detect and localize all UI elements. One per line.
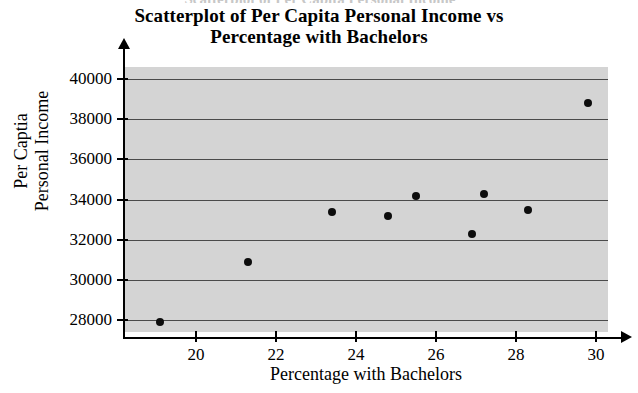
- x-axis-tick-label: 22: [246, 345, 306, 365]
- y-axis-tick-label: 30000: [40, 270, 112, 290]
- chart-title-line-2: Percentage with Bachelors: [0, 26, 638, 47]
- x-axis-tick-label: 24: [326, 345, 386, 365]
- x-axis-tick-label: 30: [566, 345, 626, 365]
- y-axis-tick: [117, 158, 128, 160]
- x-axis-arrowhead: [621, 331, 632, 343]
- y-axis-tick: [117, 279, 128, 281]
- y-axis-title: Per Captia Personal Income: [11, 41, 53, 261]
- chart-title-line-1: Scatterplot of Per Capita Personal Incom…: [0, 5, 638, 26]
- x-axis-tick: [355, 331, 357, 342]
- x-axis-title: Percentage with Bachelors: [124, 364, 608, 385]
- x-axis-tick: [435, 331, 437, 342]
- gridline: [124, 320, 608, 321]
- data-point: [584, 99, 592, 107]
- y-axis-tick: [117, 78, 128, 80]
- data-point: [468, 230, 476, 238]
- y-axis-title-line-2: Personal Income: [32, 41, 53, 261]
- y-axis-tick: [117, 319, 128, 321]
- plot-area: [124, 67, 608, 332]
- scatterplot-figure: Scatterplot of Per Capita Personal Incom…: [0, 0, 638, 393]
- y-axis-title-line-1: Per Captia: [11, 41, 32, 261]
- data-point: [156, 318, 164, 326]
- x-axis-tick-label: 26: [406, 345, 466, 365]
- data-point: [244, 258, 252, 266]
- chart-title: Scatterplot of Per Capita Personal Incom…: [0, 5, 638, 47]
- y-axis-line: [123, 46, 125, 338]
- y-axis-tick: [117, 239, 128, 241]
- y-axis-tick: [117, 118, 128, 120]
- gridline: [124, 119, 608, 120]
- x-axis-tick: [515, 331, 517, 342]
- gridline: [124, 240, 608, 241]
- x-axis-line: [123, 337, 623, 339]
- data-point: [412, 192, 420, 200]
- data-point: [328, 208, 336, 216]
- gridline: [124, 159, 608, 160]
- data-point: [524, 206, 532, 214]
- gridline: [124, 280, 608, 281]
- x-axis-tick-label: 28: [486, 345, 546, 365]
- x-axis-tick: [195, 331, 197, 342]
- x-axis-tick: [595, 331, 597, 342]
- gridline: [124, 79, 608, 80]
- x-axis-tick: [275, 331, 277, 342]
- y-axis-tick: [117, 199, 128, 201]
- clipped-heading-above: Scatterplot of Per Capita Personal Incom…: [120, 0, 520, 3]
- y-axis-arrowhead: [118, 38, 130, 49]
- gridline: [124, 200, 608, 201]
- x-axis-tick-label: 20: [166, 345, 226, 365]
- y-axis-tick-label: 28000: [40, 310, 112, 330]
- data-point: [480, 190, 488, 198]
- data-point: [384, 212, 392, 220]
